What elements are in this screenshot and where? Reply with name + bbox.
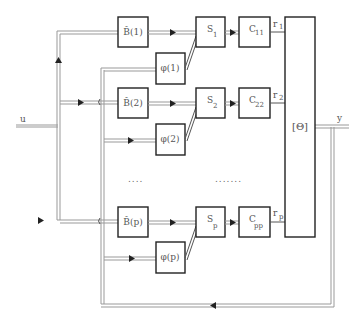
arrow-right-icon [78,99,84,106]
r-sub-2: 2 [279,94,283,102]
c-sub-22: 22 [255,101,264,109]
arrow-right-icon [230,100,236,107]
s-sub-2: 2 [213,102,217,110]
arrow-right-icon [128,137,134,144]
arrow-right-icon [170,219,176,226]
c-sub-pp: pp [254,222,263,230]
arrow-right-icon [170,100,176,107]
r-label-2: r [273,90,278,100]
ellipsis-left: .... [128,174,143,184]
c-sub-11: 11 [255,29,264,37]
r-sub-1: 1 [279,23,283,31]
row-2: B̂(2) φ(2) S 2 C 22 r 2 [118,88,285,155]
phi-label-1: φ(1) [160,63,179,73]
row-p: B̂(p) φ(p) S p C pp r p [118,207,285,273]
ellipsis-right: ....... [215,174,242,184]
b-hat-label-p: B̂(p) [123,216,142,227]
output-label: y [336,113,343,123]
r-label-p: r [273,208,278,218]
r-sub-p: p [279,213,284,221]
arrow-right-icon [38,217,44,224]
r-label-1: r [273,19,278,29]
phi-label-p: φ(p) [160,252,179,262]
arrow-right-icon [129,255,135,262]
arrow-right-icon [230,29,236,36]
theta-label: [Θ] [292,121,308,132]
s-sub-p: p [213,222,218,230]
arrow-left-icon [210,302,216,309]
b-hat-label-1: B̂(1) [123,26,142,37]
phi-label-2: φ(2) [160,134,179,144]
output-wire [315,125,349,128]
s-sub-1: 1 [213,31,217,39]
arrow-right-icon [170,29,176,36]
row-1: B̂(1) φ(1) S 1 C 11 r 1 [118,17,285,84]
input-wire [16,125,58,127]
b-hat-label-2: B̂(2) [123,97,142,108]
arrow-right-icon [230,219,236,226]
input-label: u [20,114,26,124]
block-diagram: u y [0,0,362,321]
arrow-up-icon [55,57,62,63]
